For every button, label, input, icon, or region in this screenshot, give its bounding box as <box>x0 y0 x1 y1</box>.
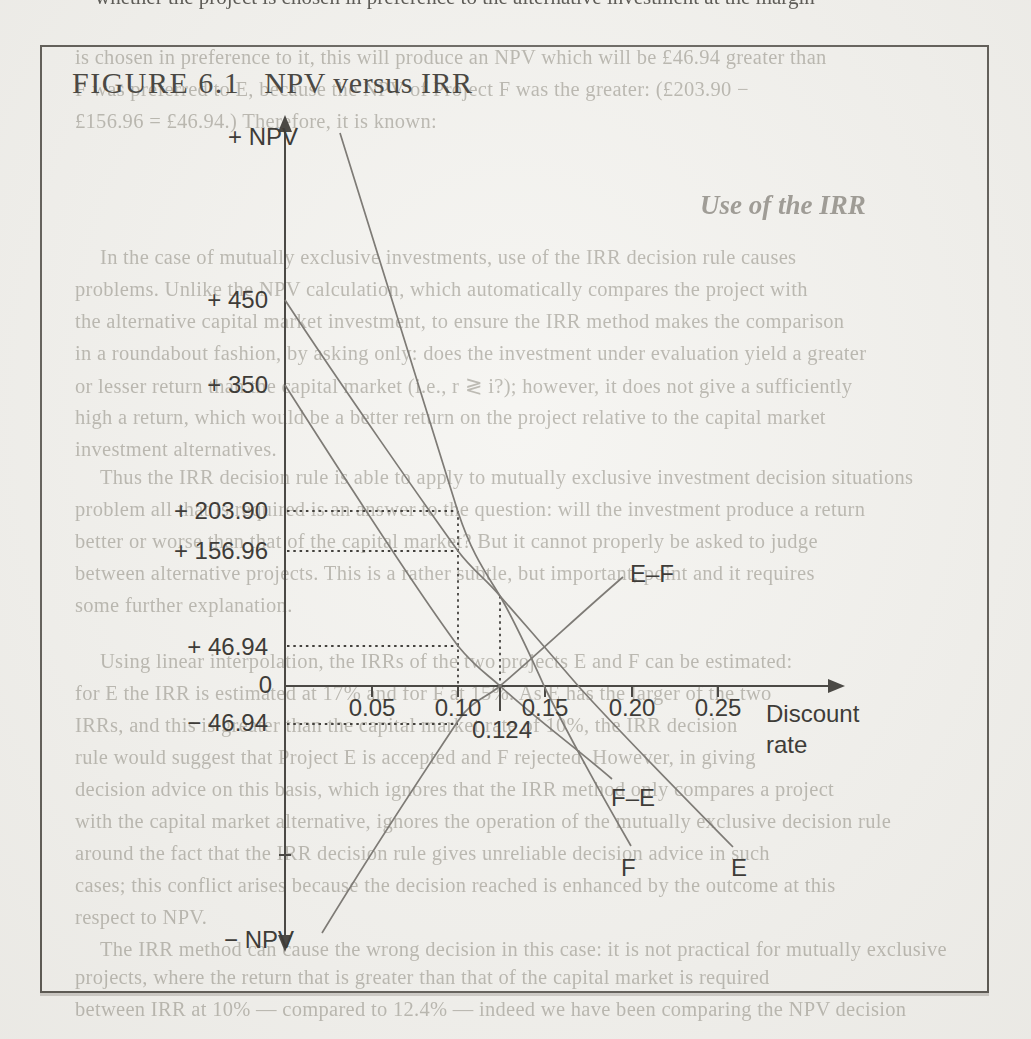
curve-label: E <box>731 854 747 882</box>
x-axis-label: 0.25 <box>673 694 763 722</box>
y-axis-label: + 46.94 <box>118 633 268 661</box>
x-axis-label: 0.124 <box>457 716 547 744</box>
x-axis-label: 0.20 <box>587 694 677 722</box>
cropped-text-line: whether the project is chosen in prefere… <box>95 0 815 10</box>
bleed-text-line: around the fact that the IRR decision ru… <box>75 842 770 865</box>
y-axis-label: + 203.90 <box>118 497 268 525</box>
y-axis-label: − 46.94 <box>118 709 268 737</box>
bleed-text-line: rule would suggest that Project E is acc… <box>75 746 756 769</box>
figure-caption: FIGURE 6.1NPV versus IRR <box>72 66 472 100</box>
y-axis-label: + 156.96 <box>118 537 268 565</box>
bleed-text-line: high a return, which would be a better r… <box>75 406 826 429</box>
bleed-text-line: between alternative projects. This is a … <box>75 562 815 585</box>
y-axis-label: + 350 <box>118 371 268 399</box>
curve-label: E–F <box>630 560 674 588</box>
y-axis-label: + 450 <box>118 286 268 314</box>
bleed-section-heading: Use of the IRR <box>700 190 866 221</box>
figure-number: FIGURE 6.1 <box>72 66 240 99</box>
bleed-text-line: In the case of mutually exclusive invest… <box>100 246 796 269</box>
bleed-text-line: investment alternatives. <box>75 438 277 461</box>
x-axis-label: 0.05 <box>327 694 417 722</box>
curve-label: F–E <box>611 784 655 812</box>
bleed-text-line: Thus the IRR decision rule is able to ap… <box>100 466 913 489</box>
bleed-text-line: in a roundabout fashion, by asking only:… <box>75 342 866 365</box>
figure-title: NPV versus IRR <box>264 66 472 99</box>
y-axis-negative-title: − NPV <box>144 926 294 954</box>
curve-label: F <box>621 854 636 882</box>
bleed-text-line: cases; this conflict arises because the … <box>75 874 835 897</box>
y-axis-positive-title: + NPV <box>148 123 298 151</box>
bleed-text-line: some further explanation. <box>75 594 293 617</box>
x-axis-title: Discount rate <box>766 698 859 760</box>
scanned-page: is chosen in preference to it, this will… <box>0 0 1031 1039</box>
bleed-text-line: between IRR at 10% — compared to 12.4% —… <box>75 998 906 1021</box>
bleed-text-line: decision advice on this basis, which ign… <box>75 778 834 801</box>
bleed-text-line: projects, where the return that is great… <box>75 966 770 989</box>
y-axis-label: 0 <box>122 671 272 699</box>
bleed-text-line: with the capital market alternative, ign… <box>75 810 891 833</box>
